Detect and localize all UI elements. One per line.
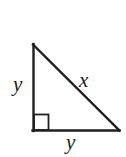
label-hypotenuse: x xyxy=(79,70,88,91)
right-angle-marker-icon xyxy=(34,115,49,131)
label-horizontal-leg: y xyxy=(66,132,75,153)
label-vertical-leg: y xyxy=(13,74,22,95)
right-triangle-figure: y x y xyxy=(0,0,126,157)
triangle-outline xyxy=(33,44,120,131)
hypotenuse-line xyxy=(33,45,120,131)
